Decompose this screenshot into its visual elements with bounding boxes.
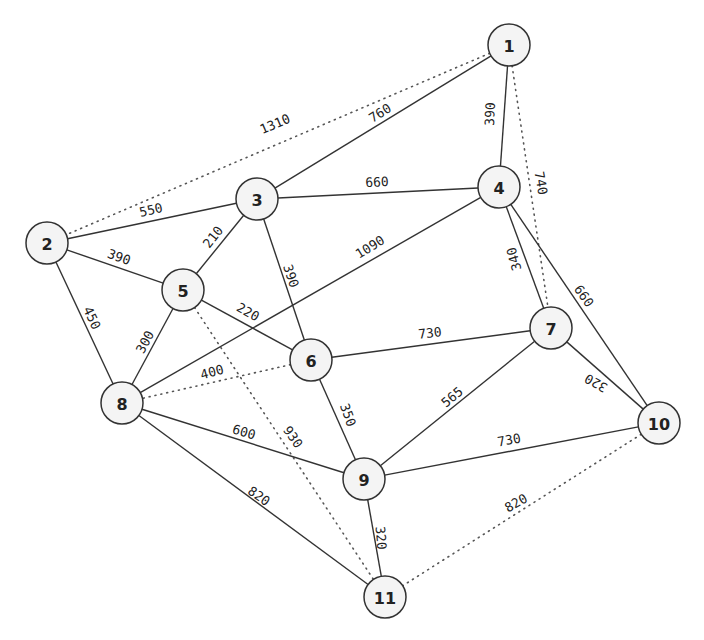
node-label: 2 bbox=[41, 235, 52, 254]
edge-10-11 bbox=[403, 434, 642, 585]
edge-weight-label: 930 bbox=[280, 423, 306, 451]
edge-weight-label: 660 bbox=[365, 174, 389, 190]
node-3: 3 bbox=[236, 178, 278, 220]
edge-weight-label: 210 bbox=[200, 223, 226, 251]
node-11: 11 bbox=[364, 576, 406, 618]
edge-weight-label: 730 bbox=[418, 324, 443, 341]
node-label: 8 bbox=[116, 395, 127, 414]
node-label: 4 bbox=[493, 179, 504, 198]
edge-weight-label: 300 bbox=[133, 328, 157, 356]
edge-weight-label: 660 bbox=[571, 282, 597, 310]
edge-4-10 bbox=[511, 204, 647, 405]
node-2: 2 bbox=[26, 222, 68, 264]
node-label: 6 bbox=[305, 352, 316, 371]
node-7: 7 bbox=[530, 307, 572, 349]
graph-diagram: 7603901310740550390450660210390109034066… bbox=[0, 0, 704, 640]
edge-weight-label: 565 bbox=[438, 384, 466, 411]
node-8: 8 bbox=[101, 382, 143, 424]
edge-weight-label: 390 bbox=[482, 102, 498, 126]
edge-weight-label: 320 bbox=[373, 526, 390, 551]
edge-8-9 bbox=[142, 409, 344, 472]
edge-5-11 bbox=[195, 308, 374, 580]
edge-weight-label: 450 bbox=[80, 304, 104, 332]
edge-1-3 bbox=[275, 56, 491, 188]
edge-1-2 bbox=[66, 53, 489, 234]
edge-2-8 bbox=[56, 262, 113, 384]
edge-weight-label: 1310 bbox=[258, 111, 293, 137]
edge-weight-label: 390 bbox=[280, 263, 302, 290]
edge-3-4 bbox=[278, 188, 478, 198]
node-label: 11 bbox=[374, 589, 396, 608]
edge-weight-label: 820 bbox=[502, 491, 530, 516]
node-label: 1 bbox=[503, 37, 514, 56]
edge-weight-label: 730 bbox=[496, 431, 522, 450]
edge-weight-label: 820 bbox=[245, 483, 273, 509]
edge-7-10 bbox=[567, 342, 643, 409]
node-1: 1 bbox=[488, 24, 530, 66]
node-10: 10 bbox=[638, 402, 680, 444]
edge-weight-label: 1090 bbox=[353, 232, 388, 261]
nodes-layer: 1234567891011 bbox=[26, 24, 680, 618]
node-label: 3 bbox=[251, 191, 262, 210]
edge-weight-label: 340 bbox=[504, 246, 525, 273]
node-label: 9 bbox=[358, 471, 369, 490]
node-label: 7 bbox=[545, 320, 556, 339]
node-label: 10 bbox=[648, 415, 670, 434]
node-6: 6 bbox=[290, 339, 332, 381]
node-5: 5 bbox=[162, 269, 204, 311]
edge-weight-label: 320 bbox=[582, 371, 610, 396]
edge-weight-label: 400 bbox=[199, 362, 226, 383]
edge-1-4 bbox=[500, 66, 507, 166]
node-9: 9 bbox=[343, 458, 385, 500]
edge-weight-label: 760 bbox=[366, 100, 394, 125]
node-label: 5 bbox=[177, 282, 188, 301]
edge-weight-label: 600 bbox=[231, 422, 258, 443]
node-4: 4 bbox=[478, 166, 520, 208]
edge-weight-label: 740 bbox=[532, 170, 551, 196]
